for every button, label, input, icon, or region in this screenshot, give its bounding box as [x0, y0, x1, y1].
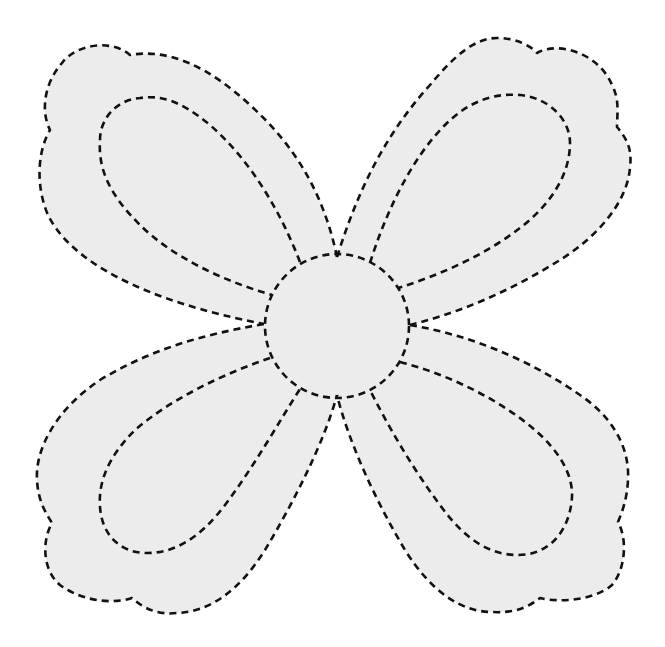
flower-illustration: [0, 0, 665, 647]
flower-fill-group: [37, 38, 631, 613]
